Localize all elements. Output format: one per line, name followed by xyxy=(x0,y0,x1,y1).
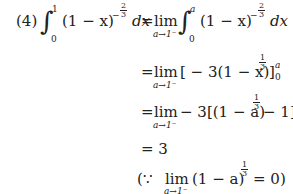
exponent-fraction: 13 xyxy=(259,54,266,71)
lim-sub-5: a→1⁻ xyxy=(164,186,187,194)
lim-sub-2: a→1⁻ xyxy=(153,80,176,90)
result: = 3 xyxy=(141,140,168,158)
exponent-sign: − xyxy=(112,10,120,20)
evaluated-tail: − 1] xyxy=(263,103,293,121)
lim-1: lim xyxy=(154,12,178,30)
because-open: (∵ xyxy=(137,170,153,188)
exponent-fraction: 13 xyxy=(241,161,248,178)
eval-upper: a xyxy=(275,60,280,70)
exponent-fraction: 23 xyxy=(258,2,265,19)
lower-bound: 0 xyxy=(189,34,195,44)
antiderivative: [ − 3(1 − x) xyxy=(180,63,269,81)
eval-lower: 0 xyxy=(275,72,281,82)
upper-bound: 1 xyxy=(52,4,58,14)
upper-bound: a xyxy=(190,4,195,14)
integrand-base: (1 − x) xyxy=(62,12,114,30)
equals-3: = xyxy=(141,103,154,121)
lim-2: lim xyxy=(154,63,178,81)
equals-2: = xyxy=(141,63,154,81)
lower-bound: 0 xyxy=(51,34,57,44)
bracket-close: ] xyxy=(269,63,275,81)
exponent-fraction: 13 xyxy=(253,94,260,111)
lim-3: lim xyxy=(154,103,178,121)
lim-sub-1: a→1⁻ xyxy=(153,29,176,39)
problem-label: (4) xyxy=(16,12,37,30)
exponent-fraction: 23 xyxy=(120,2,127,19)
differential: dx xyxy=(270,12,288,30)
lim-sub-3: a→1⁻ xyxy=(153,120,176,130)
exponent-sign: − xyxy=(250,10,258,20)
because-close: = 0) xyxy=(253,170,286,188)
base-a: (1 − a) xyxy=(192,170,244,188)
equals-1: = xyxy=(141,12,154,30)
integrand-base: (1 − x) xyxy=(200,12,252,30)
